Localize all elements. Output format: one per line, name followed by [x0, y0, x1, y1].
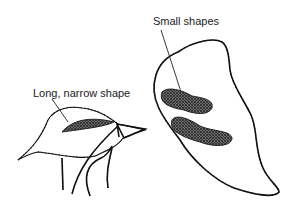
- right-ear-outline: [154, 40, 279, 195]
- left-figure: Long, narrow shape: [18, 87, 145, 196]
- right-ear-ticks: [154, 40, 279, 195]
- long-narrow-shape: [62, 119, 114, 132]
- left-pointer-line: [52, 99, 68, 122]
- right-figure: Small shapes: [153, 15, 279, 195]
- diagram-canvas: Long, narrow shape Small shapes: [0, 0, 293, 213]
- small-shapes-label: Small shapes: [153, 15, 220, 27]
- left-main-outline: [18, 107, 145, 160]
- long-narrow-shape-label: Long, narrow shape: [33, 87, 130, 99]
- small-shape-upper: [161, 89, 212, 113]
- left-lower-strokes: [62, 126, 118, 196]
